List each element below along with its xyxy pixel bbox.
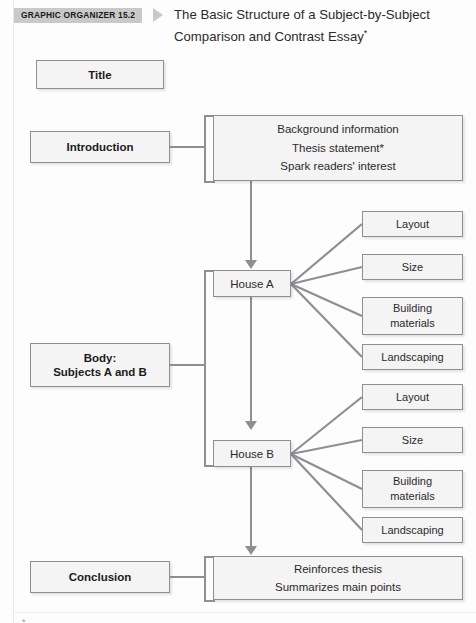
detail-label-house-a-3-line-1: Building <box>393 302 432 314</box>
footnote-marker-cropped: * <box>22 617 26 623</box>
flow-arrow-intro-to-house-a-head-icon <box>245 260 257 269</box>
connector-conclusion-stem <box>170 576 206 578</box>
stage-label-introduction: Introduction <box>66 140 133 154</box>
page-title-line-1: The Basic Structure of a Subject-by-Subj… <box>174 7 430 22</box>
flow-arrow-house-a-to-house-b-head-icon <box>245 421 257 430</box>
subject-node-label-house-b: House B <box>230 448 274 460</box>
stage-label-body-line-1: Body: <box>84 352 117 364</box>
graphic-organizer-badge: GRAPHIC ORGANIZER 15.2 <box>14 8 142 23</box>
flow-arrow-house-b-to-conclusion-head-icon <box>245 546 257 555</box>
stage-box-introduction: Introduction <box>30 131 170 163</box>
detail-label-house-b-2: Size <box>402 433 423 448</box>
detail-label-house-a-3-line-2: materials <box>390 317 435 329</box>
stage-box-conclusion: Conclusion <box>30 561 170 593</box>
bracket-introduction-spine <box>204 115 206 183</box>
content-box-conclusion: Reinforces thesis Summarizes main points <box>213 556 463 600</box>
stage-label-body: Body: Subjects A and B <box>53 351 147 379</box>
page-title: The Basic Structure of a Subject-by-Subj… <box>174 5 470 46</box>
subject-node-house-b: House B <box>213 440 291 467</box>
detail-box-house-a-building-materials: Building materials <box>362 297 463 335</box>
flow-arrow-intro-to-house-a-line <box>250 181 252 261</box>
page-margin-rule <box>13 0 14 623</box>
content-text-conclusion: Reinforces thesis Summarizes main points <box>275 560 401 597</box>
flow-arrow-house-b-to-conclusion-line <box>250 467 252 547</box>
badge-arrow-icon <box>153 8 163 22</box>
conclusion-line-2: Summarizes main points <box>275 581 401 593</box>
flow-arrow-house-a-to-house-b-line <box>250 297 252 422</box>
stage-label-body-line-2: Subjects A and B <box>53 366 147 378</box>
subject-node-house-a: House A <box>213 270 291 297</box>
conclusion-line-1: Reinforces thesis <box>294 563 382 575</box>
detail-label-house-a-4: Landscaping <box>381 350 443 365</box>
stage-label-conclusion: Conclusion <box>69 570 132 584</box>
content-box-introduction: Background information Thesis statement*… <box>213 115 463 181</box>
introduction-line-3: Spark readers' interest <box>280 160 395 172</box>
bracket-body-spine <box>204 270 206 467</box>
subject-node-label-house-a: House A <box>230 278 273 290</box>
graphic-organizer-page: GRAPHIC ORGANIZER 15.2 The Basic Structu… <box>0 0 476 623</box>
detail-box-house-a-layout: Layout <box>362 211 463 237</box>
stage-label-title: Title <box>88 68 111 82</box>
detail-box-house-b-building-materials: Building materials <box>362 470 463 508</box>
detail-box-house-a-landscaping: Landscaping <box>362 344 463 370</box>
title-footnote-marker: * <box>364 28 368 38</box>
page-bottom-rule <box>13 612 476 613</box>
detail-label-house-b-3-line-1: Building <box>393 475 432 487</box>
bracket-conclusion-spine <box>204 556 206 602</box>
stage-box-title: Title <box>36 60 164 89</box>
detail-box-house-b-size: Size <box>362 427 463 453</box>
detail-label-house-a-2: Size <box>402 260 423 275</box>
detail-box-house-b-layout: Layout <box>362 384 463 410</box>
detail-box-house-a-size: Size <box>362 254 463 280</box>
page-title-line-2: Comparison and Contrast Essay <box>174 29 364 44</box>
detail-label-house-b-3: Building materials <box>390 474 435 504</box>
introduction-line-1: Background information <box>277 123 398 135</box>
detail-label-house-b-3-line-2: materials <box>390 490 435 502</box>
detail-label-house-a-3: Building materials <box>390 301 435 331</box>
introduction-line-2: Thesis statement* <box>292 142 384 154</box>
stage-box-body: Body: Subjects A and B <box>30 343 170 387</box>
detail-label-house-a-1: Layout <box>396 217 429 232</box>
connector-body-stem <box>170 364 206 366</box>
detail-label-house-b-1: Layout <box>396 390 429 405</box>
connector-introduction-stem <box>170 146 206 148</box>
detail-label-house-b-4: Landscaping <box>381 523 443 538</box>
detail-box-house-b-landscaping: Landscaping <box>362 517 463 543</box>
content-text-introduction: Background information Thesis statement*… <box>277 120 398 176</box>
